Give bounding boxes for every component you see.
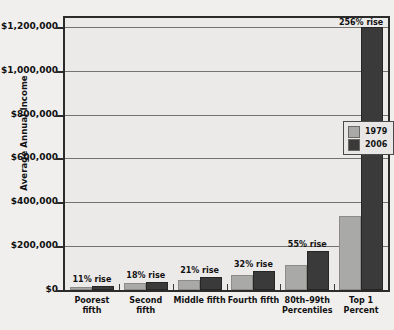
y-axis-tick-label: $200,000 (0, 240, 58, 250)
y-axis-tick-mark (56, 115, 63, 117)
y-axis-tick-label: $400,000 (0, 196, 58, 206)
legend-swatch-1979 (348, 126, 360, 138)
x-axis-tick-label-line: Middle fifth (173, 296, 227, 306)
x-axis-group-separator (227, 284, 228, 290)
x-axis-tick-label-line: 80th–99th (280, 296, 334, 306)
x-axis-tick-label-line: Poorest fifth (65, 296, 119, 315)
bar-1979[interactable] (70, 287, 92, 290)
bars-wrap (227, 18, 281, 290)
x-axis-tick-label: Top 1 Percent (334, 296, 388, 315)
bar-1979[interactable] (124, 283, 146, 290)
x-axis-group-separator (119, 284, 120, 290)
x-axis-tick-label: Second fifth (119, 296, 173, 315)
bars-wrap (173, 18, 227, 290)
rise-annotation: 32% rise (234, 260, 273, 269)
bar-group: 11% rise (65, 18, 119, 290)
legend-item-2006: 2006 (348, 138, 387, 151)
bar-2006[interactable] (253, 271, 275, 290)
y-axis-tick-mark (56, 246, 63, 248)
bars-wrap (65, 18, 119, 290)
x-axis-tick-label: 80th–99thPercentiles (280, 296, 334, 315)
rise-annotation: 256% rise (339, 18, 383, 27)
legend-swatch-2006 (348, 139, 360, 151)
bar-group: 18% rise (119, 18, 173, 290)
rise-annotation: 21% rise (180, 266, 219, 275)
y-axis-tick-label: $0 (0, 284, 58, 294)
bars-wrap (280, 18, 334, 290)
y-axis-tick-mark (56, 27, 63, 29)
bar-2006[interactable] (200, 277, 222, 290)
y-axis-tick-mark (56, 158, 63, 160)
x-axis-tick-label: Middle fifth (173, 296, 227, 306)
x-axis-tick-label-line: Fourth fifth (227, 296, 281, 306)
x-axis-tick-label-line: Percentiles (280, 306, 334, 316)
bar-2006[interactable] (146, 282, 168, 290)
rise-annotation: 18% rise (126, 271, 165, 280)
bar-2006[interactable] (307, 251, 329, 290)
y-axis-tick-label: $800,000 (0, 109, 58, 119)
bar-1979[interactable] (285, 265, 307, 290)
plot-inner: 11% rise18% rise21% rise32% rise55% rise… (65, 18, 388, 290)
plot-area: 11% rise18% rise21% rise32% rise55% rise… (63, 16, 390, 292)
bar-1979[interactable] (339, 216, 361, 290)
y-axis-tick-mark (56, 290, 63, 292)
rise-annotation: 55% rise (288, 240, 327, 249)
bar-group: 55% rise (280, 18, 334, 290)
bar-1979[interactable] (178, 280, 200, 290)
bar-1979[interactable] (231, 275, 253, 290)
bar-2006[interactable] (361, 27, 383, 290)
bar-group: 32% rise (227, 18, 281, 290)
bar-2006[interactable] (92, 286, 114, 290)
bars-wrap (119, 18, 173, 290)
income-inequality-bar-chart: Average Annual Income $1,200,000$1,000,0… (0, 0, 394, 330)
legend-item-1979: 1979 (348, 125, 387, 138)
legend-label-1979: 1979 (365, 127, 387, 136)
x-axis-group-separator (334, 284, 335, 290)
x-axis-tick-label-line: Second fifth (119, 296, 173, 315)
y-axis-tick-label: $1,000,000 (0, 65, 58, 75)
x-axis-tick-label: Poorest fifth (65, 296, 119, 315)
legend-label-2006: 2006 (365, 140, 387, 149)
y-axis-tick-label: $600,000 (0, 152, 58, 162)
y-axis-tick-mark (56, 71, 63, 73)
rise-annotation: 11% rise (73, 275, 112, 284)
bar-group: 21% rise (173, 18, 227, 290)
x-axis-group-separator (173, 284, 174, 290)
x-axis-tick-label-line: Top 1 Percent (334, 296, 388, 315)
x-axis-group-separator (280, 284, 281, 290)
y-axis-tick-mark (56, 202, 63, 204)
legend: 1979 2006 (343, 121, 394, 155)
y-axis-tick-label: $1,200,000 (0, 21, 58, 31)
x-axis-tick-label: Fourth fifth (227, 296, 281, 306)
y-axis-title: Average Annual Income (19, 53, 29, 213)
